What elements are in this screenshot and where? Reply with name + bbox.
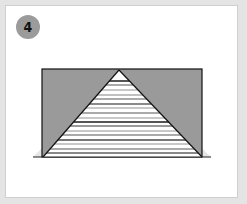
fold-diagram-icon <box>0 0 247 204</box>
